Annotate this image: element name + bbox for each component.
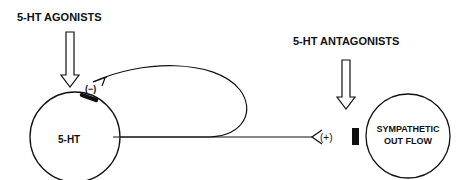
serotonin-feedback-diagram: 5-HT AGONISTS 5-HT (−) (+) 5-HT ANTAGONI…: [0, 0, 459, 180]
antagonists-arrow-icon: [337, 60, 355, 109]
excitatory-sign: (+): [320, 132, 333, 143]
agonists-label: 5-HT AGONISTS: [17, 11, 102, 23]
feedback-loop-path: [93, 66, 247, 137]
inhibitory-sign: (−): [85, 84, 96, 94]
sympathetic-label-line2: OUT FLOW: [384, 136, 432, 146]
sympathetic-label-line1: SYMPATHETIC: [376, 124, 440, 134]
antagonists-label: 5-HT ANTAGONISTS: [293, 35, 399, 47]
sympathetic-receptor-block: [352, 128, 359, 145]
serotonin-node-label: 5-HT: [58, 134, 80, 145]
agonists-arrow-icon: [61, 32, 79, 87]
